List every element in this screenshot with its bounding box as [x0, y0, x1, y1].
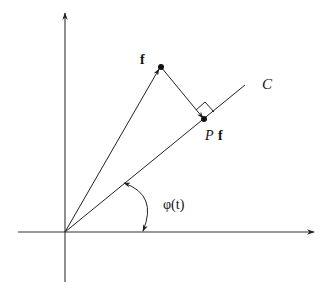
diagram-canvas: f P f C φ(t) [0, 0, 332, 292]
angle-arc [124, 183, 148, 231]
point-f [158, 64, 164, 70]
label-f: f [140, 52, 145, 67]
label-pf-f: f [218, 128, 223, 143]
label-angle: φ(t) [163, 197, 185, 213]
vector-f [65, 69, 159, 232]
label-c: C [262, 76, 273, 92]
line-c [65, 85, 245, 232]
point-pf [201, 116, 207, 122]
perpendicular-segment [161, 67, 203, 118]
label-p: P [204, 128, 214, 143]
right-angle-marker [196, 102, 214, 112]
